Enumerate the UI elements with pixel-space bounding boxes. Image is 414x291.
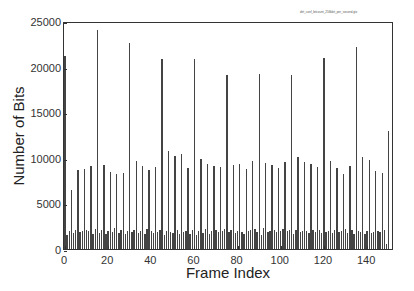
x-tick-label: 120 [314, 254, 332, 266]
data-bar [226, 75, 227, 249]
y-tick-mark [64, 69, 67, 70]
data-bar [347, 233, 348, 249]
x-tick-mark [367, 246, 368, 249]
data-bar [325, 232, 326, 249]
x-tick-mark [281, 246, 282, 249]
data-bar [243, 234, 244, 249]
y-tick-mark [64, 205, 67, 206]
y-tick-mark [64, 23, 67, 24]
data-bar [120, 230, 121, 249]
x-tick-label: 20 [101, 254, 113, 266]
y-tick-mark [64, 114, 67, 115]
data-bar [323, 58, 324, 249]
x-tick-label: 80 [231, 254, 243, 266]
x-tick-mark [65, 246, 66, 249]
x-tick-mark [108, 246, 109, 249]
data-bar [101, 230, 102, 249]
x-tick-label: 0 [61, 254, 67, 266]
data-bar [284, 162, 285, 249]
data-bar [129, 43, 130, 249]
data-bar [97, 30, 98, 249]
data-bar [194, 59, 195, 249]
y-tick-mark [64, 160, 67, 161]
x-tick-label: 40 [144, 254, 156, 266]
data-bar [224, 229, 225, 249]
y-tick-label: 5000 [37, 198, 61, 210]
data-bar [259, 74, 260, 249]
x-tick-mark [238, 246, 239, 249]
data-bar [356, 47, 357, 249]
x-tick-mark [324, 246, 325, 249]
y-axis-label: Number of Bits [10, 86, 27, 185]
x-tick-label: 60 [187, 254, 199, 266]
y-tick-label: 25000 [30, 16, 61, 28]
y-tick-label: 15000 [30, 107, 61, 119]
data-bar [388, 131, 389, 249]
data-bar [265, 163, 266, 249]
y-tick-label: 10000 [30, 153, 61, 165]
data-bar [79, 232, 80, 249]
y-tick-mark [64, 251, 67, 252]
data-bar [161, 59, 162, 249]
data-bar [291, 75, 292, 249]
x-axis-label: Frame Index [186, 264, 270, 281]
plot-area [63, 22, 393, 250]
data-bar [202, 233, 203, 249]
x-tick-mark [194, 246, 195, 249]
y-tick-label: 20000 [30, 62, 61, 74]
data-bar [183, 232, 184, 249]
legend-text: dirt_conf_bitcount_256kbit_per_second.gt… [300, 10, 357, 14]
data-bar [306, 231, 307, 249]
data-bar [142, 166, 143, 249]
data-bar [64, 56, 65, 249]
x-tick-label: 140 [357, 254, 375, 266]
x-tick-mark [151, 246, 152, 249]
x-tick-label: 100 [271, 254, 289, 266]
